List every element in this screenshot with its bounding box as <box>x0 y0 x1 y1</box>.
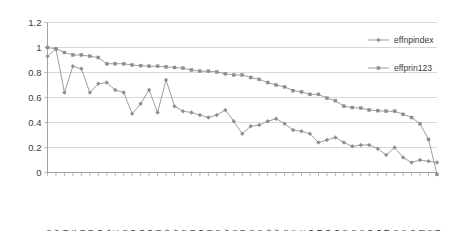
data-point-effprin123 <box>148 65 151 68</box>
data-point-effprin123 <box>292 89 295 92</box>
data-point-effprin123 <box>198 70 201 73</box>
data-point-effprin123 <box>181 67 184 70</box>
data-point-effprin123 <box>165 65 168 68</box>
y-axis-tick-label: 1 <box>36 42 41 53</box>
data-point-effprin123 <box>215 70 218 73</box>
data-point-effprin123 <box>224 72 227 75</box>
data-point-effprin123 <box>207 70 210 73</box>
data-point-effprin123 <box>258 78 261 81</box>
data-point-effprin123 <box>436 173 439 176</box>
data-point-effprin123 <box>427 138 430 141</box>
data-point-effprin123 <box>249 76 252 79</box>
data-point-effprin123 <box>300 90 303 93</box>
data-point-effprin123 <box>63 51 66 54</box>
data-point-effprin123 <box>376 109 379 112</box>
data-point-effprin123 <box>368 109 371 112</box>
data-point-effprin123 <box>105 62 108 65</box>
y-axis-tick-label: 0.8 <box>28 67 41 78</box>
data-point-effprin123 <box>241 74 244 77</box>
data-point-effprin123 <box>88 55 91 58</box>
data-point-effprin123 <box>342 105 345 108</box>
x-axis-tick-label: Djibouti <box>433 229 442 231</box>
legend-label-effnpindex: effnpindex <box>394 35 434 45</box>
data-point-effprin123 <box>80 54 83 57</box>
data-point-effprin123 <box>275 84 278 87</box>
data-point-effprin123 <box>71 54 74 57</box>
data-point-effprin123 <box>402 113 405 116</box>
data-point-effprin123 <box>122 62 125 65</box>
y-axis-tick-label: 1.2 <box>28 17 41 28</box>
data-point-effprin123 <box>410 116 413 119</box>
data-point-effprin123 <box>266 81 269 84</box>
data-point-effprin123 <box>317 93 320 96</box>
data-point-effprin123 <box>156 65 159 68</box>
y-axis-tick-label: 0.6 <box>28 92 41 103</box>
data-point-effprin123 <box>46 46 49 49</box>
data-point-effprin123 <box>325 97 328 100</box>
data-point-effprin123 <box>308 93 311 96</box>
data-point-effprin123 <box>97 56 100 59</box>
data-point-effprin123 <box>419 122 422 125</box>
data-point-effprin123 <box>232 74 235 77</box>
y-axis-tick-label: 0.4 <box>28 117 41 128</box>
chart-container: 00.20.40.60.811.2SwedenNorwayAustraliDen… <box>0 0 465 231</box>
data-point-effprin123 <box>190 69 193 72</box>
data-point-effprin123 <box>114 62 117 65</box>
legend-label-effprin123: effprin123 <box>394 63 432 73</box>
y-axis-tick-label: 0.2 <box>28 142 41 153</box>
data-point-effprin123 <box>54 47 57 50</box>
data-point-effprin123 <box>283 85 286 88</box>
legend-marker-effprin123 <box>377 67 380 70</box>
data-point-effprin123 <box>173 66 176 69</box>
data-point-effprin123 <box>385 110 388 113</box>
y-axis-tick-label: 0 <box>36 167 41 178</box>
line-chart: 00.20.40.60.811.2SwedenNorwayAustraliDen… <box>0 0 465 231</box>
data-point-effprin123 <box>334 99 337 102</box>
data-point-effprin123 <box>139 64 142 67</box>
data-point-effprin123 <box>359 107 362 110</box>
data-point-effprin123 <box>131 64 134 67</box>
data-point-effprin123 <box>351 106 354 109</box>
data-point-effprin123 <box>393 110 396 113</box>
